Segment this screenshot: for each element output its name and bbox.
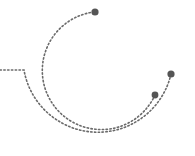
inner-dotted-arc	[42, 12, 155, 130]
lower-node-dot	[152, 92, 159, 99]
right-node-dot	[167, 70, 174, 77]
orbit-graphic	[0, 0, 195, 156]
outer-dotted-arc	[0, 70, 171, 132]
top-node-dot	[91, 8, 98, 15]
